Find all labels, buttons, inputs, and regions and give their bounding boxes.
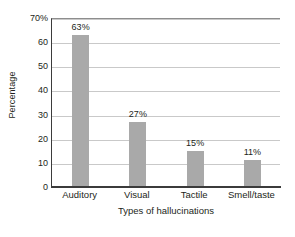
y-tick-label: 0 [43, 183, 48, 192]
bar[interactable] [72, 35, 89, 187]
x-axis-ticks: AuditoryVisualTactileSmell/taste [51, 190, 281, 206]
bar-value-label: 15% [186, 139, 204, 148]
bars-layer: 63%27%15%11% [52, 19, 280, 187]
x-axis-line [51, 186, 281, 188]
bar-value-label: 27% [129, 110, 147, 119]
bar[interactable] [187, 151, 204, 187]
bar-group[interactable]: 63% [72, 19, 89, 187]
plot-area: 63%27%15%11% [51, 18, 280, 187]
bar-group[interactable]: 27% [129, 19, 146, 187]
bar[interactable] [129, 122, 146, 187]
x-tick-label: Tactile [181, 190, 208, 200]
y-axis-title-label: Percentage [7, 71, 17, 118]
bar[interactable] [244, 160, 261, 187]
x-tick-label: Auditory [62, 190, 97, 200]
y-tick-label: 60 [38, 38, 48, 47]
y-tick-label: 50 [38, 62, 48, 71]
x-tick-label: Visual [124, 190, 150, 200]
y-tick-label: 10 [38, 158, 48, 167]
y-tick-label: 40 [38, 86, 48, 95]
y-tick-label: 20 [38, 134, 48, 143]
y-tick-label: 30 [38, 110, 48, 119]
bar-group[interactable]: 11% [244, 19, 261, 187]
bar-chart: Percentage 010203040506070% 63%27%15%11%… [0, 0, 295, 237]
bar-value-label: 11% [244, 148, 261, 157]
y-tick-label: 70% [30, 14, 48, 23]
y-axis-ticks: 010203040506070% [18, 18, 48, 187]
bar-group[interactable]: 15% [187, 19, 204, 187]
x-axis-title: Types of hallucinations [51, 206, 281, 216]
bar-value-label: 63% [72, 23, 90, 32]
x-tick-label: Smell/taste [228, 190, 275, 200]
